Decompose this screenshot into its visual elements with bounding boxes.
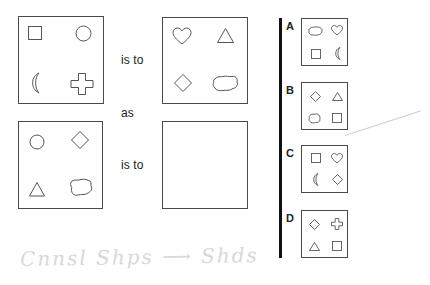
heart-icon (172, 27, 192, 45)
connector-is-to-2: is to (121, 158, 144, 172)
circle-icon (75, 25, 92, 42)
cloud-icon (69, 178, 93, 197)
faint-handwriting: Cnnsl Shps ⟶ Shds (20, 243, 259, 271)
option-a-label: A (286, 20, 294, 32)
option-d-label: D (286, 212, 294, 224)
diamond-icon (309, 219, 320, 230)
square-icon (28, 26, 42, 40)
triangle-icon (29, 182, 45, 197)
crescent-icon (333, 47, 342, 60)
stimulus-box-1 (18, 16, 104, 104)
heart-icon (331, 25, 343, 36)
crescent-icon (311, 173, 320, 186)
diamond-icon (310, 91, 321, 102)
triangle-icon (332, 92, 343, 101)
answer-slot-box (162, 121, 248, 209)
cloud-icon (212, 75, 239, 92)
square-icon (311, 153, 321, 163)
option-b-box[interactable] (301, 82, 348, 130)
square-icon (332, 241, 342, 251)
connector-as: as (121, 106, 134, 120)
connector-is-to-1: is to (121, 53, 144, 67)
stimulus-box-3 (18, 121, 103, 209)
option-a-box[interactable] (301, 18, 348, 66)
vertical-divider (279, 18, 282, 258)
square-icon (332, 113, 342, 123)
cloud-icon (308, 113, 321, 124)
diamond-icon (332, 174, 343, 185)
heart-icon (331, 153, 343, 164)
cloud-icon (308, 26, 323, 36)
diamond-icon (174, 74, 192, 92)
triangle-icon (309, 242, 320, 251)
square-icon (311, 49, 321, 59)
option-c-label: C (286, 147, 294, 159)
diamond-icon (71, 131, 89, 149)
option-b-label: B (286, 84, 294, 96)
crescent-icon (29, 72, 43, 94)
option-d-box[interactable] (301, 210, 348, 258)
option-c-box[interactable] (301, 145, 348, 193)
cross-icon (331, 218, 343, 230)
circle-icon (29, 134, 45, 150)
faint-pencil-mark (345, 110, 421, 136)
cross-icon (70, 73, 94, 95)
stimulus-box-2 (162, 17, 248, 104)
triangle-icon (217, 28, 234, 43)
